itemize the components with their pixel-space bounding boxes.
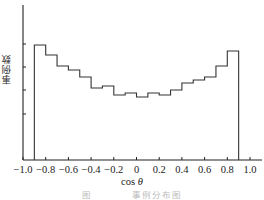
- axes: [23, 5, 262, 160]
- caption-prefix: 图: [82, 190, 92, 200]
- caption-text: 事例分布图: [132, 190, 182, 200]
- histogram-steps: [34, 45, 238, 160]
- x-axis-label-theta: θ: [138, 176, 143, 187]
- x-tick-label: 0.6: [198, 164, 211, 175]
- x-tick-label: −0.6: [59, 164, 78, 175]
- x-axis-label: cos θ: [121, 176, 143, 187]
- x-axis-label-cos: cos: [121, 176, 138, 187]
- y-axis-label: 事例数: [1, 54, 15, 84]
- x-tick-label: −0.2: [104, 164, 123, 175]
- x-tick-label: 0.2: [153, 164, 166, 175]
- x-tick-label: 1.0: [243, 164, 256, 175]
- x-tick-labels: −1.0−0.8−0.6−0.4−0.200.20.40.60.81.0: [13, 164, 256, 175]
- x-tick-label: −1.0: [13, 164, 32, 175]
- x-tick-label: −0.8: [36, 164, 55, 175]
- x-tick-label: 0.4: [175, 164, 189, 175]
- x-tick-label: 0: [134, 164, 139, 175]
- figure-caption: 图事例分布图: [0, 188, 264, 200]
- x-tick-label: −0.4: [82, 164, 102, 175]
- x-tick-label: 0.8: [221, 164, 234, 175]
- histogram-chart: −1.0−0.8−0.6−0.4−0.200.20.40.60.81.0 cos…: [0, 0, 264, 200]
